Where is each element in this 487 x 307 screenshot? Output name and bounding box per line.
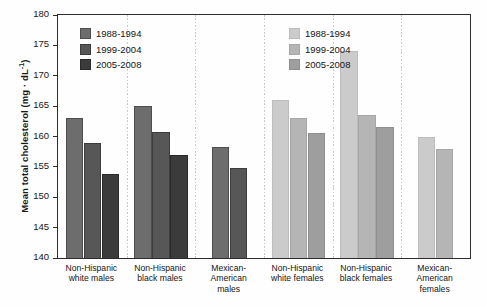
x-category-label: Mexican-Americanfemales	[400, 263, 469, 294]
bar	[436, 149, 454, 258]
bar	[290, 118, 308, 258]
legend-item: 1988-1994	[289, 27, 350, 40]
y-tick-label: 160	[33, 130, 49, 141]
x-category-label-line: Non-Hispanic	[263, 263, 332, 273]
legend-item: 1999-2004	[289, 43, 350, 56]
x-category-label-line: Mexican-	[400, 263, 469, 273]
cholesterol-bar-chart: Mean total cholesterol (mg · dL-1) 14014…	[0, 0, 487, 307]
x-category-label-line: Non-Hispanic	[126, 263, 195, 273]
legend-label: 2005-2008	[305, 59, 350, 70]
legend-label: 1999-2004	[96, 44, 141, 55]
y-axis-title-close: )	[19, 59, 30, 62]
legend-swatch-icon	[289, 44, 300, 55]
x-category-label-line: American	[400, 273, 469, 283]
legend-swatch-icon	[289, 59, 300, 70]
x-category-label-line: females	[400, 284, 469, 294]
bar	[66, 118, 84, 258]
legend-label: 1988-1994	[305, 28, 350, 39]
x-category-label-line: black females	[332, 273, 401, 283]
y-axis-title-exponent: -1	[18, 63, 25, 69]
y-tick-label: 180	[33, 8, 49, 19]
bar	[308, 133, 326, 258]
legend-swatch-icon	[80, 59, 91, 70]
bar	[84, 143, 102, 258]
plot-area: 140145150155160165170175180 1988-1994199…	[57, 14, 471, 259]
legend-label: 2005-2008	[96, 59, 141, 70]
x-category-label-line: American	[194, 273, 263, 283]
x-category-label-line: Non-Hispanic	[332, 263, 401, 273]
legend-item: 2005-2008	[80, 58, 141, 71]
legend-item: 1988-1994	[80, 27, 141, 40]
legend-males: 1988-19941999-20042005-2008	[80, 27, 141, 74]
legend-item: 2005-2008	[289, 58, 350, 71]
y-tick-label: 140	[33, 251, 49, 262]
y-tick-label: 155	[33, 160, 49, 171]
x-category-label-line: white males	[57, 273, 126, 283]
bar	[152, 132, 170, 258]
x-category-label-line: black males	[126, 273, 195, 283]
y-tick-label: 165	[33, 99, 49, 110]
x-category-label: Non-Hispanicblack females	[332, 263, 401, 284]
legend-label: 1999-2004	[305, 44, 350, 55]
y-tick-label: 150	[33, 190, 49, 201]
bar	[170, 155, 188, 258]
x-category-label: Mexican-Americanmales	[194, 263, 263, 294]
legend-label: 1988-1994	[96, 28, 141, 39]
x-axis-category-labels: Non-Hispanicwhite malesNon-Hispanicblack…	[57, 263, 471, 307]
y-tick-label: 175	[33, 38, 49, 49]
legend-swatch-icon	[80, 44, 91, 55]
x-category-label-line: white females	[263, 273, 332, 283]
bar	[376, 127, 394, 258]
bar	[340, 51, 358, 258]
y-axis-title: Mean total cholesterol (mg · dL-1)	[18, 36, 30, 236]
x-category-label: Non-Hispanicblack males	[126, 263, 195, 284]
bar	[212, 147, 230, 258]
x-category-label-line: Mexican-	[194, 263, 263, 273]
x-category-label-line: Non-Hispanic	[57, 263, 126, 273]
legend-swatch-icon	[80, 28, 91, 39]
bar	[358, 115, 376, 258]
bar	[102, 174, 120, 258]
legend-item: 1999-2004	[80, 43, 141, 56]
bar	[418, 137, 436, 259]
bar	[230, 168, 248, 258]
y-tick-label: 170	[33, 69, 49, 80]
x-category-label: Non-Hispanicwhite females	[263, 263, 332, 284]
legend-females: 1988-19941999-20042005-2008	[289, 27, 350, 74]
bar	[134, 106, 152, 258]
y-tick-label: 145	[33, 221, 49, 232]
bar	[272, 100, 290, 258]
x-category-label-line: males	[194, 284, 263, 294]
legend-swatch-icon	[289, 28, 300, 39]
y-axis-title-text: Mean total cholesterol (mg · dL	[19, 69, 30, 213]
x-category-label: Non-Hispanicwhite males	[57, 263, 126, 284]
